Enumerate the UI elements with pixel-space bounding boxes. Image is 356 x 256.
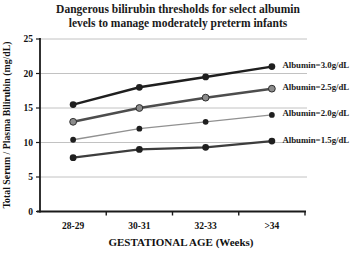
data-point-albumin-1.5g-dl: [202, 144, 209, 151]
y-tick-label: 20: [24, 69, 34, 79]
data-point-albumin-2.0g-dl: [70, 137, 76, 143]
y-axis-title: Total Serum / Plasma Bilirubin (mg/dL): [1, 41, 13, 208]
data-point-albumin-3.0g-dl: [268, 63, 275, 70]
data-point-albumin-1.5g-dl: [136, 146, 143, 153]
x-tick-label: 32-33: [195, 221, 217, 231]
legend-label-albumin-2.0g-dl: Albumin=2.0g/dL: [282, 108, 349, 118]
y-tick-label: 0: [28, 207, 33, 217]
data-point-albumin-3.0g-dl: [202, 74, 209, 81]
data-point-albumin-2.5g-dl: [202, 94, 209, 101]
chart-plot-area: 051015202528-2930-3132-33>34Albumin=3.0g…: [0, 0, 356, 256]
y-tick-label: 25: [24, 34, 34, 44]
data-point-albumin-2.0g-dl: [269, 112, 275, 118]
legend-label-albumin-3.0g-dl: Albumin=3.0g/dL: [282, 60, 349, 70]
y-tick-label: 15: [24, 103, 34, 113]
data-point-albumin-1.5g-dl: [70, 154, 77, 161]
data-point-albumin-2.5g-dl: [70, 118, 77, 125]
series-line-albumin-1.5g-dl: [73, 141, 272, 158]
data-point-albumin-3.0g-dl: [136, 84, 143, 91]
x-axis-title: GESTATIONAL AGE (Weeks): [108, 236, 253, 249]
data-point-albumin-2.0g-dl: [136, 126, 142, 132]
series-line-albumin-2.5g-dl: [73, 89, 272, 122]
y-tick-label: 5: [28, 172, 33, 182]
data-point-albumin-2.0g-dl: [203, 119, 209, 125]
legend-label-albumin-1.5g-dl: Albumin=1.5g/dL: [282, 135, 349, 145]
series-line-albumin-3.0g-dl: [73, 67, 272, 105]
bilirubin-threshold-figure: Dangerous bilirubin thresholds for selec…: [0, 0, 356, 256]
legend-label-albumin-2.5g-dl: Albumin=2.5g/dL: [282, 82, 349, 92]
x-tick-label: >34: [264, 221, 279, 231]
y-tick-label: 10: [24, 138, 34, 148]
x-tick-label: 30-31: [128, 221, 150, 231]
data-point-albumin-2.5g-dl: [136, 105, 143, 112]
x-tick-label: 28-29: [62, 221, 84, 231]
data-point-albumin-1.5g-dl: [268, 138, 275, 145]
data-point-albumin-3.0g-dl: [70, 101, 77, 108]
series-line-albumin-2.0g-dl: [73, 115, 272, 140]
data-point-albumin-2.5g-dl: [268, 85, 275, 92]
